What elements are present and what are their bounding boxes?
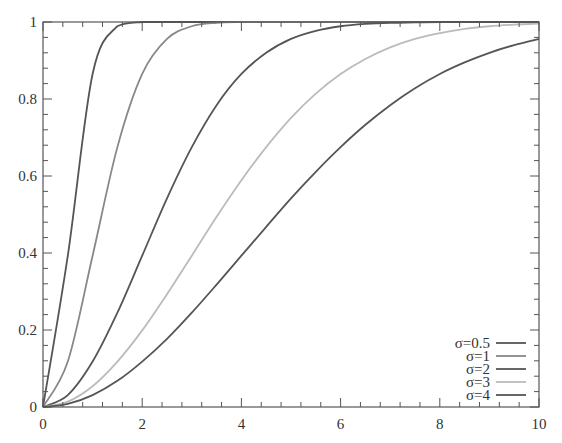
x-tick-label: 0	[39, 416, 47, 432]
y-tick-label: 0.2	[18, 322, 37, 338]
chart: 0246810 00.20.40.60.81 σ=0.5σ=1σ=2σ=3σ=4	[0, 0, 562, 443]
y-tick-label: 1	[30, 14, 38, 30]
x-tick-labels: 0246810	[39, 416, 546, 432]
legend: σ=0.5σ=1σ=2σ=3σ=4	[455, 335, 526, 403]
x-tick-label: 6	[337, 416, 345, 432]
y-tick-label: 0	[30, 399, 38, 415]
x-tick-label: 4	[238, 416, 246, 432]
y-tick-label: 0.8	[18, 91, 37, 107]
legend-label: σ=4	[466, 387, 491, 403]
y-tick-labels: 00.20.40.60.81	[18, 14, 37, 415]
y-tick-label: 0.6	[18, 168, 37, 184]
series-line-4	[43, 39, 539, 407]
x-tick-label: 10	[532, 416, 547, 432]
x-tick-label: 2	[138, 416, 146, 432]
x-tick-label: 8	[436, 416, 444, 432]
y-tick-label: 0.4	[18, 245, 37, 261]
